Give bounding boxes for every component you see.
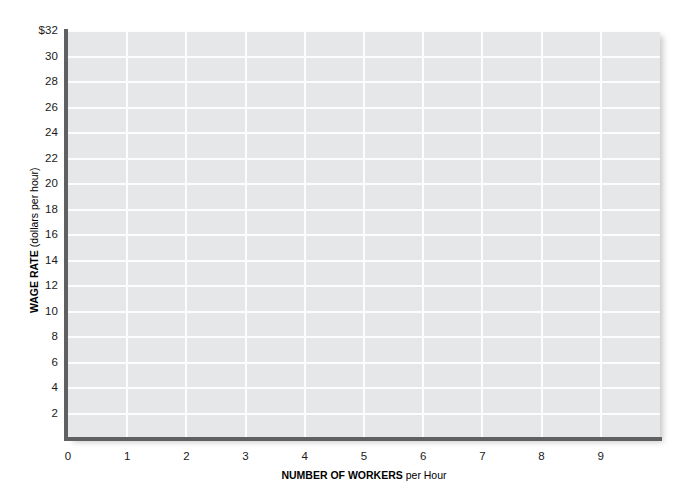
gridline-vertical — [541, 31, 543, 439]
gridline-vertical — [304, 31, 306, 439]
x-axis-title-bold: NUMBER OF WORKERS — [281, 469, 402, 481]
x-axis-tick-label: 6 — [420, 451, 427, 463]
x-axis-title: NUMBER OF WORKERS per Hour — [68, 470, 660, 481]
x-axis-tick-label: 7 — [479, 451, 486, 463]
x-axis-tick-label: 4 — [302, 451, 309, 463]
gridline-vertical — [422, 31, 424, 439]
gridline-vertical — [363, 31, 365, 439]
gridline-vertical — [185, 31, 187, 439]
x-axis-tick-label: 5 — [361, 451, 368, 463]
x-axis-tick-label: 1 — [124, 451, 131, 463]
y-axis-title-rest: (dollars per hour) — [28, 167, 40, 250]
y-axis-tick-label: 28 — [2, 76, 64, 88]
x-axis-tick-label: 0 — [65, 451, 72, 463]
gridline-vertical — [126, 31, 128, 439]
x-axis-tick-label: 8 — [538, 451, 545, 463]
x-axis-tick-label: 2 — [183, 451, 190, 463]
y-axis-title-bold: WAGE RATE — [28, 250, 40, 313]
y-axis-tick-label: $32 — [2, 25, 64, 37]
y-axis-title: WAGE RATE (dollars per hour) — [29, 110, 40, 370]
gridline-vertical — [245, 31, 247, 439]
x-axis-title-rest: per Hour — [403, 469, 447, 481]
x-axis-spine — [64, 437, 662, 441]
x-axis-tick-label: 3 — [242, 451, 249, 463]
gridline-vertical — [600, 31, 602, 439]
x-axis-tick-label: 9 — [598, 451, 605, 463]
y-axis-tick-label: 4 — [2, 382, 64, 394]
y-axis-spine — [64, 29, 68, 441]
y-axis-tick-label: 2 — [2, 408, 64, 420]
gridline-vertical — [481, 31, 483, 439]
plot-area — [68, 31, 660, 439]
chart-figure: $3230282624222018161412108642 0123456789… — [0, 0, 689, 494]
y-axis-tick-label: 30 — [2, 51, 64, 63]
